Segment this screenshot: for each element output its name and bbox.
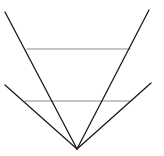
geometry-diagram — [0, 0, 164, 156]
diagram-background — [0, 0, 164, 156]
